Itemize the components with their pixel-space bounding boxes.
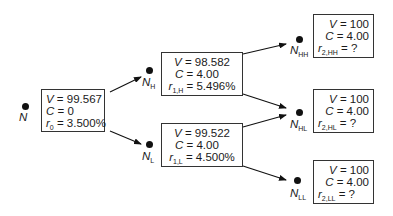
node-box-hh: V = 100 C = 4.00 r2,HH = ?: [313, 14, 374, 58]
eq: =: [54, 117, 67, 129]
c-value: 0: [67, 105, 73, 117]
node-box-ll: V = 100 C = 4.00 r2,LL = ?: [313, 160, 374, 204]
edge-l-hl: [243, 115, 286, 127]
r-value: 5.496%: [196, 80, 235, 92]
node-box-h: V = 98.582 C = 4.00 r1,H = 5.496%: [161, 52, 243, 96]
node-label-root: N: [19, 111, 27, 123]
coupon-row: C = 4.00: [318, 105, 369, 117]
eq: =: [337, 117, 350, 129]
node-label-l: NL: [142, 150, 154, 164]
node-label-text: N: [19, 111, 27, 123]
edge-root-h: [110, 77, 141, 92]
coupon-row: C = 4.00: [318, 30, 369, 42]
v-symbol: V: [329, 18, 337, 30]
c-value: 4.00: [347, 105, 369, 117]
node-label-sub: L: [150, 157, 154, 164]
c-symbol: C: [325, 105, 333, 117]
eq: =: [334, 105, 347, 117]
r-value: ?: [351, 42, 357, 54]
node-label-sub: LL: [298, 194, 306, 201]
node-dot-hh: [296, 36, 303, 43]
eq: =: [337, 18, 350, 30]
value-row: V = 99.522: [166, 127, 238, 139]
node-label-sub: H: [150, 83, 155, 90]
c-value: 4.00: [347, 176, 369, 188]
value-row: V = 100: [318, 93, 369, 105]
edge-l-ll: [243, 166, 286, 180]
r-subscript: 1,L: [173, 158, 183, 165]
coupon-row: C = 4.00: [166, 68, 238, 80]
node-dot-root: [22, 103, 29, 110]
coupon-row: C = 0: [46, 105, 100, 117]
v-value: 99.567: [67, 93, 102, 105]
eq: =: [54, 105, 67, 117]
node-dot-h: [146, 67, 153, 74]
value-row: V = 100: [318, 164, 369, 176]
v-symbol: V: [329, 93, 337, 105]
v-symbol: V: [329, 164, 337, 176]
eq: =: [183, 151, 196, 163]
eq: =: [183, 68, 196, 80]
eq: =: [334, 30, 347, 42]
v-value: 100: [350, 93, 369, 105]
r-value: 4.500%: [196, 151, 235, 163]
r-value: 3.500%: [67, 117, 106, 129]
r-value: ?: [349, 188, 355, 200]
node-label-hl: NHL: [290, 118, 307, 132]
node-label-hh: NHH: [290, 44, 308, 58]
node-box-root: V = 99.567 C = 0 r0 = 3.500%: [41, 89, 105, 132]
value-row: V = 99.567: [46, 93, 100, 105]
node-dot-hl: [296, 109, 303, 116]
v-symbol: V: [46, 93, 54, 105]
node-label-h: NH: [142, 76, 155, 90]
r-subscript: 2,HL: [322, 124, 337, 131]
v-value: 99.522: [195, 127, 230, 139]
v-symbol: V: [174, 56, 182, 68]
c-symbol: C: [325, 30, 333, 42]
rate-row: r1,H = 5.496%: [166, 80, 238, 97]
node-label-sub: HH: [298, 51, 308, 58]
eq: =: [334, 176, 347, 188]
eq: =: [182, 127, 195, 139]
eq: =: [335, 188, 348, 200]
value-row: V = 100: [318, 18, 369, 30]
eq: =: [337, 93, 350, 105]
node-box-l: V = 99.522 C = 4.00 r1,L = 4.500%: [161, 123, 243, 167]
eq: =: [54, 93, 67, 105]
c-symbol: C: [325, 176, 333, 188]
r-subscript: 1,H: [172, 87, 183, 94]
eq: =: [338, 42, 351, 54]
rate-row: r2,LL = ?: [318, 188, 369, 205]
eq: =: [182, 56, 195, 68]
node-dot-ll: [294, 177, 301, 184]
rate-row: r2,HH = ?: [318, 42, 369, 59]
eq: =: [183, 139, 196, 151]
c-value: 4.00: [196, 139, 218, 151]
edge-root-l: [110, 131, 141, 144]
rate-row: r1,L = 4.500%: [166, 151, 238, 168]
c-value: 4.00: [347, 30, 369, 42]
v-symbol: V: [174, 127, 182, 139]
node-label-ll: NLL: [290, 187, 306, 201]
value-row: V = 98.582: [166, 56, 238, 68]
eq: =: [183, 80, 196, 92]
c-value: 4.00: [196, 68, 218, 80]
r-subscript: 2,HH: [322, 49, 338, 56]
edge-h-hl: [243, 94, 286, 108]
coupon-row: C = 4.00: [166, 139, 238, 151]
edge-h-hh: [243, 44, 286, 54]
v-value: 100: [350, 164, 369, 176]
node-box-hl: V = 100 C = 4.00 r2,HL = ?: [313, 89, 374, 133]
rate-row: r0 = 3.500%: [46, 117, 100, 134]
v-value: 100: [350, 18, 369, 30]
r-value: ?: [350, 117, 356, 129]
r-subscript: 2,LL: [322, 195, 336, 202]
node-dot-l: [146, 141, 153, 148]
coupon-row: C = 4.00: [318, 176, 369, 188]
node-label-sub: HL: [298, 125, 307, 132]
rate-row: r2,HL = ?: [318, 117, 369, 134]
v-value: 98.582: [195, 56, 230, 68]
eq: =: [337, 164, 350, 176]
